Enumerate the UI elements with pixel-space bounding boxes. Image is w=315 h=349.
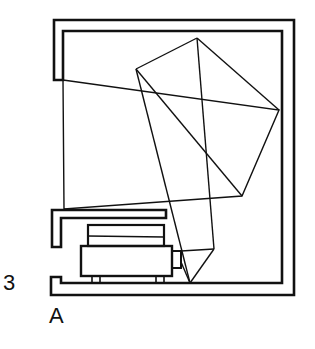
upper-shelf	[52, 210, 166, 247]
projector-body	[81, 246, 172, 276]
projector-plate-divider	[88, 236, 164, 237]
figure-letter-label: A	[49, 303, 64, 329]
projector-lens	[172, 251, 181, 268]
figure-number-label: 3	[3, 270, 15, 296]
rear-projection-diagram	[0, 0, 315, 349]
